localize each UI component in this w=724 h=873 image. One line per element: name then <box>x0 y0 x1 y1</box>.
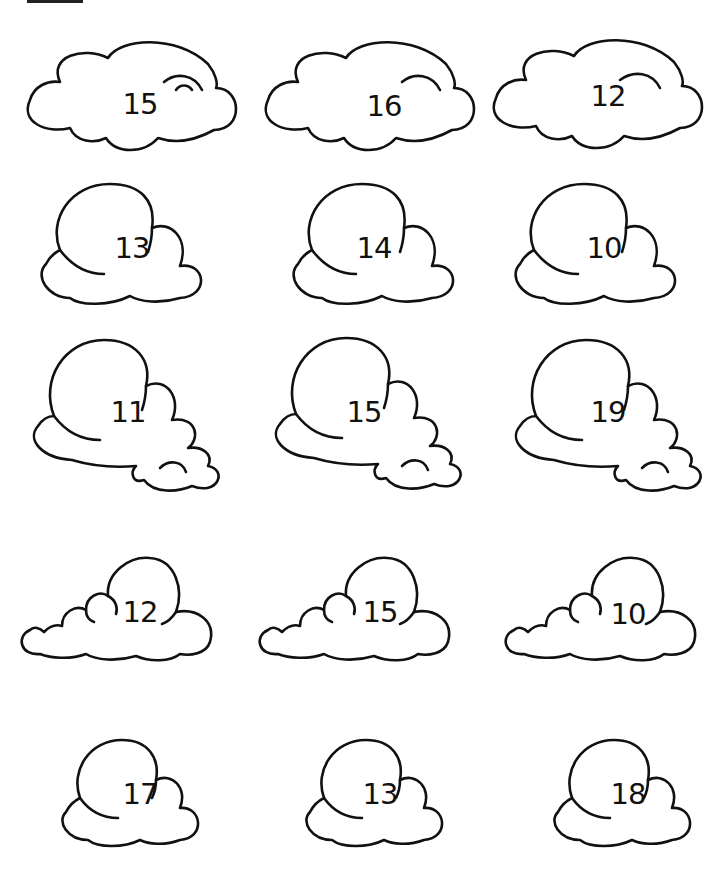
cloud-number: 12 <box>591 82 626 111</box>
cloud-1: 15 <box>26 36 238 152</box>
cloud-3: 12 <box>492 34 704 150</box>
cloud-5: 14 <box>292 180 460 306</box>
cloud-number: 12 <box>123 598 158 627</box>
cloud-number: 13 <box>363 780 398 809</box>
cloud-6: 10 <box>514 180 682 306</box>
cloud-number: 16 <box>367 92 402 121</box>
cloud-number: 15 <box>347 398 382 427</box>
cloud-12: 10 <box>504 556 698 664</box>
cloud-number: 18 <box>611 780 646 809</box>
cloud-number: 10 <box>587 234 622 263</box>
cloud-number: 13 <box>115 234 150 263</box>
cloud-number: 19 <box>591 398 626 427</box>
cloud-4: 13 <box>40 180 208 306</box>
cloud-number: 15 <box>123 90 158 119</box>
cloud-13: 17 <box>60 736 204 848</box>
cloud-2: 16 <box>264 36 476 152</box>
cloud-9: 19 <box>514 336 706 492</box>
top-edge-mark <box>27 0 83 3</box>
cloud-10: 12 <box>20 556 214 664</box>
cloud-8: 15 <box>274 334 466 490</box>
cloud-11: 15 <box>258 556 452 664</box>
cloud-long-icon <box>504 556 698 664</box>
cloud-14: 13 <box>304 736 448 848</box>
cloud-number: 17 <box>123 780 158 809</box>
cloud-number: 11 <box>111 398 146 427</box>
cloud-number: 14 <box>357 234 392 263</box>
cloud-number: 10 <box>611 600 646 629</box>
cloud-7: 11 <box>32 336 224 492</box>
cloud-long-icon <box>258 556 452 664</box>
cloud-15: 18 <box>552 736 696 848</box>
cloud-long-icon <box>20 556 214 664</box>
cloud-number: 15 <box>363 598 398 627</box>
